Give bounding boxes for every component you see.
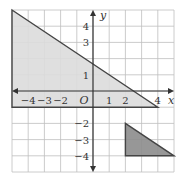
y-axis-arrow-down-icon	[90, 166, 96, 172]
y-tick-label: −2	[74, 118, 89, 129]
y-tick-label: 3	[83, 37, 89, 48]
x-tick-label: 4	[155, 95, 161, 106]
y-axis-label: y	[99, 9, 107, 22]
x-axis-label: x	[168, 94, 175, 107]
x-tick-label: −3	[37, 95, 52, 106]
x-tick-label: −2	[53, 95, 68, 106]
y-tick-label: −4	[74, 151, 89, 162]
x-tick-label: 1	[106, 95, 112, 106]
y-tick-label: 1	[83, 70, 89, 81]
coordinate-plane: −4−3−2124431−2−3−4Oxy	[0, 0, 184, 182]
x-tick-label: 2	[122, 95, 128, 106]
y-tick-label: 4	[83, 21, 89, 32]
y-axis-arrow-up-icon	[90, 10, 96, 16]
x-tick-label: −4	[21, 95, 36, 106]
y-tick-label: −3	[74, 135, 89, 146]
origin-label: O	[79, 94, 88, 107]
